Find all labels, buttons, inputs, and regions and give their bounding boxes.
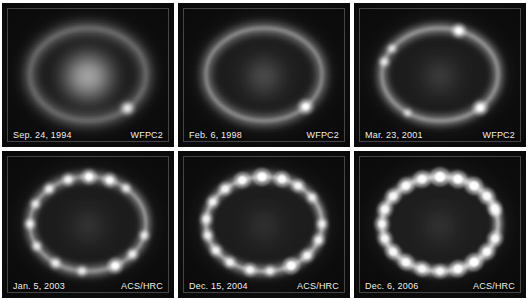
supernova-ring-image bbox=[2, 151, 174, 298]
panel-instrument-label: ACS/HRC bbox=[297, 281, 339, 291]
supernova-ring-image bbox=[354, 151, 526, 298]
supernova-ring-image bbox=[2, 3, 174, 147]
panel-instrument-label: ACS/HRC bbox=[121, 281, 163, 291]
supernova-ring-image bbox=[354, 3, 526, 147]
supernova-ring-image bbox=[178, 3, 350, 147]
panel-date-label: Jan. 5, 2003 bbox=[13, 281, 65, 291]
montage-grid: Sep. 24, 1994WFPC2Feb. 6, 1998WFPC2Mar. … bbox=[0, 0, 528, 301]
panel-date-label: Mar. 23, 2001 bbox=[365, 130, 423, 140]
image-panel: Dec. 6, 2006ACS/HRC bbox=[354, 151, 526, 298]
panel-instrument-label: WFPC2 bbox=[483, 130, 516, 140]
panel-date-label: Dec. 15, 2004 bbox=[189, 281, 248, 291]
panel-date-label: Sep. 24, 1994 bbox=[13, 130, 72, 140]
panel-instrument-label: ACS/HRC bbox=[473, 281, 515, 291]
supernova-ring-image bbox=[178, 151, 350, 298]
panel-date-label: Feb. 6, 1998 bbox=[189, 130, 242, 140]
panel-date-label: Dec. 6, 2006 bbox=[365, 281, 418, 291]
image-panel: Sep. 24, 1994WFPC2 bbox=[2, 3, 174, 147]
image-panel: Mar. 23, 2001WFPC2 bbox=[354, 3, 526, 147]
image-panel: Dec. 15, 2004ACS/HRC bbox=[178, 151, 350, 298]
image-panel: Jan. 5, 2003ACS/HRC bbox=[2, 151, 174, 298]
panel-instrument-label: WFPC2 bbox=[131, 130, 164, 140]
panel-instrument-label: WFPC2 bbox=[307, 130, 340, 140]
image-panel: Feb. 6, 1998WFPC2 bbox=[178, 3, 350, 147]
